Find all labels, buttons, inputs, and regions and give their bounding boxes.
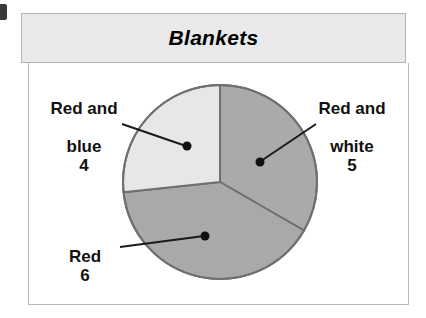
leader-dot-red-and-blue	[183, 142, 192, 151]
pie-label-red-and-blue: Red and blue 4	[32, 80, 136, 194]
pie-label-red-and-white: Red and white 5	[300, 80, 404, 194]
pie-label-red-line1: Red	[69, 247, 101, 266]
leader-dot-red-and-white	[256, 158, 265, 167]
pie-label-red: Red 6	[48, 228, 122, 304]
leader-dot-red	[201, 232, 210, 241]
pie-value-red-and-blue: 4	[32, 156, 136, 175]
pie-label-red-and-white-line2: white	[330, 137, 373, 156]
pie-value-red: 6	[48, 266, 122, 285]
pie-label-red-and-blue-line1: Red and	[50, 99, 117, 118]
pie-slice-red-and-blue[interactable]	[123, 85, 220, 192]
chart-stage: Blankets Red and blue 4 Red and white 5	[0, 0, 426, 318]
pie-label-red-and-blue-line2: blue	[67, 137, 102, 156]
pie-value-red-and-white: 5	[300, 156, 404, 175]
pie-label-red-and-white-line1: Red and	[318, 99, 385, 118]
